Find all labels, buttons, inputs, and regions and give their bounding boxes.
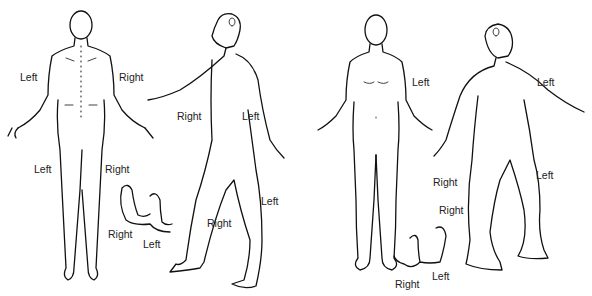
label-right-lateral-right-leg: Right	[207, 218, 232, 229]
feet-left-figure	[394, 227, 446, 267]
body-diagram: Left Right Left Right Right Left Left Ri…	[0, 0, 592, 296]
right-lateral-figure	[148, 14, 284, 288]
label-right-lateral-right-torso: Right	[177, 111, 202, 122]
label-anterior-left-arm: Left	[412, 77, 430, 88]
anterior-figure	[318, 15, 432, 270]
label-right-lateral-left-torso: Left	[242, 111, 260, 122]
label-feet-right-left: Left	[143, 239, 161, 250]
left-lateral-figure	[434, 24, 584, 270]
label-left-lateral-right-leg: Right	[439, 205, 464, 216]
label-feet-left-left: Left	[432, 271, 450, 282]
body-outlines	[0, 0, 592, 296]
label-left-lateral-right-hand: Right	[433, 177, 458, 188]
label-posterior-left-arm: Left	[20, 72, 38, 83]
label-posterior-right-leg: Right	[105, 164, 130, 175]
label-posterior-left-leg: Left	[34, 164, 52, 175]
feet-right-figure	[121, 185, 172, 232]
label-right-lateral-left-leg: Left	[261, 196, 279, 207]
label-feet-right-right: Right	[108, 229, 133, 240]
label-posterior-right-arm: Right	[119, 72, 144, 83]
label-left-lateral-left-leg: Left	[536, 170, 554, 181]
label-feet-left-right: Right	[395, 279, 420, 290]
label-left-lateral-left-arm: Left	[537, 77, 555, 88]
